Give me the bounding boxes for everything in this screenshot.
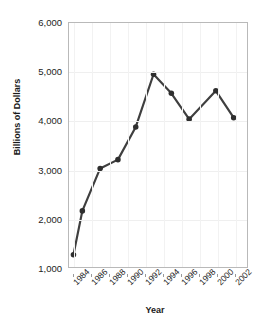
horizontal-gridline [69,220,247,221]
vertical-gridline [74,23,75,267]
vertical-gridline [128,23,129,267]
x-axis-tick-label: 1996 [179,267,199,287]
data-point-marker [80,208,86,214]
y-axis-tick-label: 2,000 [16,213,62,224]
vertical-gridline [200,23,201,267]
y-axis-tick-labels: 6,0005,0004,0003,0002,0001,000 [14,22,62,268]
horizontal-gridline [69,72,247,73]
vertical-gridline [182,23,183,267]
vertical-gridline [218,23,219,267]
x-axis-title: Year [60,305,250,315]
vertical-gridline [236,23,237,267]
y-axis-tick-label: 4,000 [16,115,62,126]
x-axis-tick-label: 1988 [107,267,127,287]
x-axis-tick-label: 1994 [161,267,181,287]
data-point-marker [169,90,175,96]
data-series-layer [69,23,247,267]
horizontal-gridline [69,121,247,122]
y-axis-tick-label: 3,000 [16,164,62,175]
plot-area [68,22,248,268]
y-axis-tick-label: 6,000 [16,17,62,28]
data-point-marker [133,124,139,130]
x-axis-tick-label: 1992 [143,267,163,287]
y-axis-tick-label: 1,000 [16,263,62,274]
x-axis-tick-label: 1986 [89,267,109,287]
x-axis-tick-label: 1990 [125,267,145,287]
horizontal-gridline [69,171,247,172]
x-axis-tick-labels: 1984198619881990199219941996199820002002 [68,274,248,304]
vertical-gridline [110,23,111,267]
vertical-gridline [146,23,147,267]
vertical-gridline [92,23,93,267]
x-axis-tick-label: 2000 [215,267,235,287]
x-axis-tick-label: 2002 [233,267,253,287]
x-axis-tick-label: 1998 [197,267,217,287]
y-axis-tick-label: 5,000 [16,66,62,77]
line-chart-figure: Billions of Dollars 6,0005,0004,0003,000… [0,0,269,329]
series-line [73,74,233,255]
x-axis-tick-label: 1984 [71,267,91,287]
vertical-gridline [164,23,165,267]
data-point-marker [115,157,121,163]
